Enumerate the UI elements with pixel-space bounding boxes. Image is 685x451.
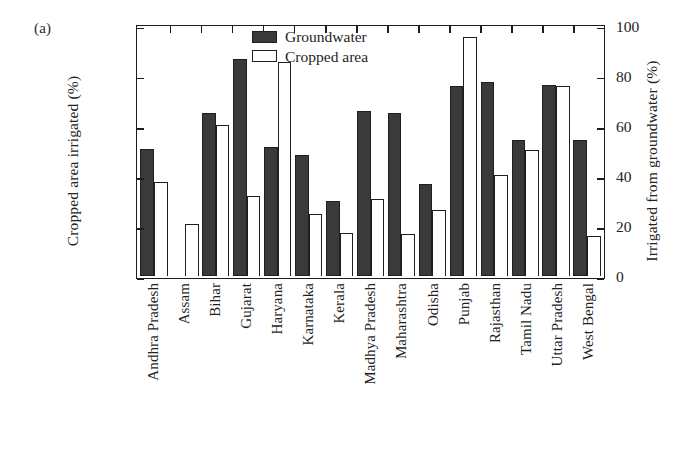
y-axis-label-right: Irrigated from groundwater (%) (643, 36, 661, 286)
y-tick-mark (597, 28, 604, 30)
bar-group (572, 28, 603, 277)
x-category-label: Maharashtra (393, 283, 410, 359)
x-category: Gujarat (231, 283, 262, 443)
x-category: Madhya Pradesh (355, 283, 386, 443)
y-tick-label-right: 20 (616, 219, 632, 235)
bar-groundwater (388, 113, 402, 276)
bar-groundwater (481, 82, 495, 276)
bar-group (479, 28, 510, 277)
x-tick-mark (542, 26, 544, 33)
x-tick-mark (418, 26, 420, 33)
y-tick-mark (137, 128, 144, 130)
legend-swatch-dark (252, 31, 277, 43)
bar-groundwater (419, 184, 433, 277)
plot-area (136, 25, 605, 279)
y-tick-label-right: 40 (616, 169, 632, 185)
bar-groundwater (512, 140, 526, 277)
bar-group (510, 28, 541, 277)
bar-groundwater (140, 149, 154, 277)
bar-cropped-area (525, 150, 539, 277)
bar-groundwater (573, 140, 587, 277)
bar-group (417, 28, 448, 277)
x-axis-category-labels: Andhra PradeshAssamBiharGujaratHaryanaKa… (138, 283, 604, 443)
bar-cropped-area (556, 86, 570, 277)
x-tick-mark (170, 26, 172, 33)
x-category-label: Punjab (455, 283, 472, 325)
y-tick-mark (597, 228, 604, 230)
x-category: Bihar (200, 283, 231, 443)
x-category: West Bengal (572, 283, 603, 443)
x-category-label: Tamil Nadu (517, 283, 534, 355)
x-category-label: Assam (176, 283, 193, 324)
bar-cropped-area (278, 62, 292, 276)
bar-group (170, 28, 201, 277)
x-category-label: Odisha (424, 283, 441, 326)
bar-cropped-area (401, 234, 415, 277)
x-category: Assam (169, 283, 200, 443)
bar-cropped-area (494, 175, 508, 277)
x-category: Andhra Pradesh (138, 283, 169, 443)
x-category: Punjab (448, 283, 479, 443)
bar-cropped-area (587, 236, 601, 276)
y-axis-label-left: Cropped area irrigated (%) (64, 36, 82, 286)
bar-groundwater (326, 201, 340, 276)
x-category: Karnataka (293, 283, 324, 443)
x-category: Odisha (417, 283, 448, 443)
y-tick-mark (137, 178, 144, 180)
x-tick-mark (573, 26, 575, 33)
y-tick-mark (597, 278, 604, 280)
bar-cropped-area (371, 199, 385, 277)
y-tick-label-right: 60 (616, 119, 632, 135)
bar-group (448, 28, 479, 277)
x-category-label: Bihar (207, 283, 224, 317)
x-category-label: Karnataka (300, 283, 317, 346)
x-category-label: Madhya Pradesh (362, 283, 379, 385)
y-tick-label-right: 0 (616, 269, 624, 285)
x-category: Rajasthan (479, 283, 510, 443)
legend-label: Groundwater (285, 27, 367, 47)
bar-groundwater (295, 155, 309, 277)
x-category-label: Kerala (331, 283, 348, 324)
y-tick-mark (137, 28, 144, 30)
x-tick-mark (201, 26, 203, 33)
x-category: Haryana (262, 283, 293, 443)
bar-groundwater (357, 111, 371, 277)
y-tick-mark (597, 78, 604, 80)
bar-groundwater (450, 86, 464, 277)
bar-groundwater (542, 85, 556, 277)
y-tick-mark (137, 228, 144, 230)
x-category: Uttar Pradesh (541, 283, 572, 443)
legend-label: Cropped area (285, 47, 368, 67)
bar-groundwater (233, 59, 247, 276)
bar-groups (139, 28, 603, 277)
y-tick-label-right: 100 (616, 19, 639, 35)
x-tick-mark (232, 26, 234, 33)
x-tick-mark (387, 26, 389, 33)
panel-label: (a) (34, 20, 51, 37)
y-tick-mark (137, 278, 144, 280)
bar-cropped-area (247, 196, 261, 276)
x-category-label: Gujarat (238, 283, 255, 329)
x-category-label: Rajasthan (486, 283, 503, 343)
bar-cropped-area (154, 182, 168, 276)
y-tick-label-right: 80 (616, 69, 632, 85)
bar-group (200, 28, 231, 277)
x-tick-mark (480, 26, 482, 33)
bar-cropped-area (216, 125, 230, 277)
bar-cropped-area (309, 214, 323, 277)
bar-cropped-area (432, 210, 446, 276)
bar-groundwater (202, 113, 216, 276)
figure-panel-a: (a) Cropped area irrigated (%) Irrigated… (0, 0, 685, 451)
x-category: Maharashtra (386, 283, 417, 443)
bar-groundwater (264, 147, 278, 276)
y-tick-mark (137, 78, 144, 80)
y-tick-mark (597, 128, 604, 130)
y-tick-mark (597, 178, 604, 180)
x-category: Tamil Nadu (510, 283, 541, 443)
bar-cropped-area (340, 233, 354, 277)
bar-cropped-area (185, 224, 199, 277)
x-tick-mark (449, 26, 451, 33)
x-category-label: West Bengal (579, 283, 596, 360)
x-category-label: Andhra Pradesh (145, 283, 162, 381)
legend-item: Cropped area (252, 47, 368, 67)
